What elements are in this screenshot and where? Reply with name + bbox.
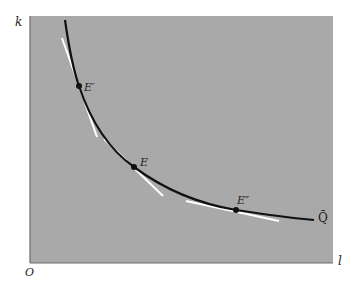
x-axis-label: l (338, 254, 342, 268)
point-e (131, 164, 137, 170)
label-e-prime: E′ (83, 81, 95, 94)
origin-label: O (25, 266, 34, 279)
label-e-double-prime: E″ (236, 194, 250, 207)
isoquant-diagram: E′ E E″ Q̄ k l O (0, 0, 361, 286)
plot-area (30, 16, 333, 263)
curve-label-q-bar: Q̄ (318, 210, 328, 225)
y-axis-label: k (15, 15, 22, 29)
label-e: E (139, 156, 148, 169)
point-e-double-prime (233, 207, 239, 213)
point-e-prime (76, 83, 82, 89)
